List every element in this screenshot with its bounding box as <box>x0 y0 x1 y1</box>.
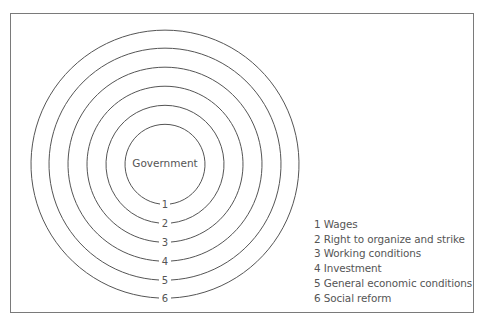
ring-number-3: 3 <box>162 237 168 248</box>
ring-number-6: 6 <box>162 293 168 304</box>
ring-number-1: 1 <box>162 199 168 210</box>
ring-number-2: 2 <box>162 218 168 229</box>
legend: 1 Wages 2 Right to organize and strike 3… <box>314 217 472 305</box>
ring-number-5: 5 <box>162 275 168 286</box>
center-label: Government <box>132 157 197 169</box>
legend-item: 1 Wages <box>314 217 472 232</box>
ring-number-4: 4 <box>162 256 168 267</box>
legend-item: 2 Right to organize and strike <box>314 232 472 247</box>
legend-item: 6 Social reform <box>314 291 472 306</box>
legend-item: 3 Working conditions <box>314 246 472 261</box>
legend-item: 5 General economic conditions <box>314 276 472 291</box>
legend-item: 4 Investment <box>314 261 472 276</box>
